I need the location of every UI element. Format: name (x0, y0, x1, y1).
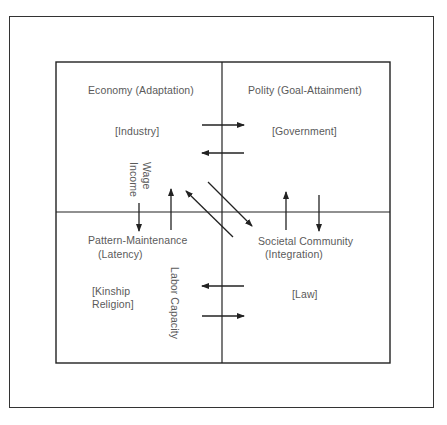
aggl-diagram (0, 0, 447, 425)
labor-capacity-label: Labor Capacity (168, 267, 181, 339)
latency-title-line2: (Latency) (98, 248, 143, 261)
arrow-integration-to-economy (186, 191, 233, 237)
integration-title-line2: (Integration) (265, 248, 323, 261)
latency-example-line1: [Kinship (92, 285, 130, 298)
latency-title-line1: Pattern-Maintenance (88, 234, 187, 247)
integration-example: [Law] (292, 288, 318, 301)
polity-title: Polity (Goal-Attainment) (248, 84, 362, 97)
integration-title-line1: Societal Community (258, 235, 353, 248)
latency-example-line2: Religion] (92, 298, 134, 311)
economy-title: Economy (Adaptation) (88, 84, 194, 97)
wage-label: Wage (140, 162, 153, 189)
polity-example: [Government] (272, 125, 337, 138)
economy-example: [Industry] (115, 125, 159, 138)
income-label: Income (127, 162, 140, 197)
